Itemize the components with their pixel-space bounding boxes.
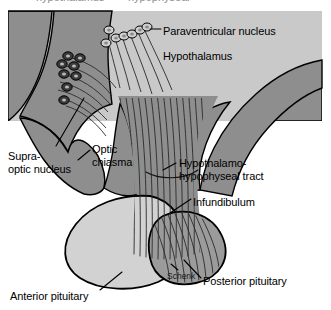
label-infundibulum: Infundibulum [193, 196, 255, 209]
label-optic-chiasma-line1: Optic [92, 143, 150, 156]
label-optic-chiasma-line2: chiasma [92, 156, 150, 169]
label-optic-chiasma: Optic chiasma [92, 143, 150, 168]
label-hht-line2: hypophyseal tract [179, 170, 291, 183]
label-anterior-pituitary: Anterior pituitary [10, 290, 88, 303]
anatomical-figure: hypothalamus hypophyseal [0, 0, 331, 310]
label-posterior-pituitary: Posterior pituitary [203, 275, 287, 288]
label-paraventricular-nucleus: Paraventricular nucleus [163, 25, 276, 38]
label-supraoptic-line1: Supra- [8, 150, 82, 163]
label-hypothalamo-hypophyseal-tract: Hypothalamo- hypophyseal tract [179, 157, 291, 182]
artist-signature: Schenk [167, 272, 195, 281]
label-supraoptic-line2: optic nucleus [8, 163, 82, 176]
label-hypothalamus: Hypothalamus [163, 50, 232, 63]
label-hht-line1: Hypothalamo- [179, 157, 291, 170]
label-supraoptic-nucleus: Supra- optic nucleus [8, 150, 82, 175]
